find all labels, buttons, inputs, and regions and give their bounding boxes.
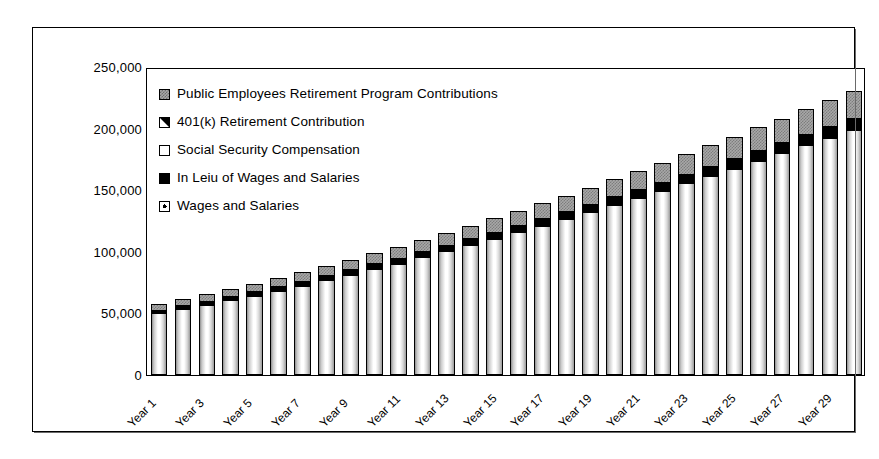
bar-segment-pers xyxy=(582,188,599,205)
bar-year-20[interactable] xyxy=(606,179,623,375)
legend-item-in-lieu[interactable]: In Leiu of Wages and Salaries xyxy=(159,164,579,192)
bar-segment-wages xyxy=(222,300,239,375)
bar-segment-pers xyxy=(270,278,287,287)
bar-segment-pers xyxy=(702,145,719,167)
bar-segment-wages xyxy=(390,264,407,375)
bar-segment-wages xyxy=(151,313,168,375)
bar-segment-wages xyxy=(199,305,216,375)
y-axis-tick-label: 200,000 xyxy=(50,123,142,136)
bar-segment-pers xyxy=(486,218,503,233)
bar-year-2[interactable] xyxy=(175,299,192,375)
bar-segment-in-lieu xyxy=(390,259,407,264)
x-axis-tick-label: Year 5 xyxy=(221,397,254,430)
bar-year-6[interactable] xyxy=(270,278,287,375)
bar-year-12[interactable] xyxy=(414,240,431,375)
bar-segment-wages xyxy=(846,130,863,375)
bar-segment-in-lieu xyxy=(702,167,719,176)
bar-segment-pers xyxy=(678,154,695,175)
y-axis-tick-label: 150,000 xyxy=(50,184,142,197)
bar-segment-in-lieu xyxy=(774,143,791,153)
x-axis-tick-label: Year 23 xyxy=(653,392,690,429)
bar-segment-in-lieu xyxy=(750,151,767,160)
bar-year-16[interactable] xyxy=(510,211,527,375)
bar-segment-in-lieu xyxy=(199,302,216,305)
bar-segment-wages xyxy=(702,176,719,375)
x-axis-tick-label: Year 25 xyxy=(701,392,738,429)
legend-item-label: 401(k) Retirement Contribution xyxy=(177,115,365,129)
bar-segment-pers xyxy=(606,179,623,197)
y-axis-tick-label: 100,000 xyxy=(50,246,142,259)
legend-item-label: Social Security Compensation xyxy=(177,143,360,157)
bar-segment-pers xyxy=(726,137,743,160)
bar-segment-wages xyxy=(246,296,263,375)
bar-segment-in-lieu xyxy=(846,119,863,130)
bar-segment-in-lieu xyxy=(222,297,239,300)
bar-year-30[interactable] xyxy=(846,91,863,375)
bar-year-25[interactable] xyxy=(726,137,743,375)
bar-segment-wages xyxy=(318,280,335,375)
bar-segment-in-lieu xyxy=(630,190,647,198)
bar-segment-in-lieu xyxy=(582,205,599,212)
bar-segment-in-lieu xyxy=(678,175,695,184)
bar-year-15[interactable] xyxy=(486,218,503,375)
bar-segment-pers xyxy=(366,253,383,264)
bar-segment-pers xyxy=(750,127,767,151)
x-axis-tick-label: Year 9 xyxy=(317,397,350,430)
bar-year-18[interactable] xyxy=(558,196,575,376)
chart-legend: Public Employees Retirement Program Cont… xyxy=(159,80,579,220)
bar-year-11[interactable] xyxy=(390,247,407,375)
bar-year-22[interactable] xyxy=(654,163,671,375)
chart-outer-frame: 250,000200,000150,000100,00050,0000 Year… xyxy=(32,27,855,432)
x-axis-tick-label: Year 15 xyxy=(461,392,498,429)
legend-swatch-pers-icon xyxy=(159,89,170,100)
bar-year-29[interactable] xyxy=(822,100,839,375)
bar-year-10[interactable] xyxy=(366,253,383,375)
bar-segment-pers xyxy=(342,260,359,271)
x-axis-tick-label: Year 21 xyxy=(605,392,642,429)
bar-year-7[interactable] xyxy=(294,272,311,375)
bar-segment-pers xyxy=(390,247,407,259)
bar-segment-in-lieu xyxy=(414,252,431,257)
bar-year-5[interactable] xyxy=(246,284,263,375)
bar-year-8[interactable] xyxy=(318,266,335,375)
bar-segment-wages xyxy=(750,161,767,375)
bar-segment-in-lieu xyxy=(246,292,263,296)
legend-item-retirement-401k[interactable]: 401(k) Retirement Contribution xyxy=(159,108,579,136)
bar-segment-pers xyxy=(438,233,455,246)
bar-segment-wages xyxy=(486,239,503,375)
legend-item-pers[interactable]: Public Employees Retirement Program Cont… xyxy=(159,80,579,108)
bar-year-21[interactable] xyxy=(630,171,647,375)
x-axis-tick-label: Year 11 xyxy=(365,393,402,430)
bar-segment-wages xyxy=(798,145,815,375)
bar-year-27[interactable] xyxy=(774,119,791,375)
bar-segment-wages xyxy=(366,269,383,375)
legend-item-wages[interactable]: Wages and Salaries xyxy=(159,192,579,220)
legend-item-label: Public Employees Retirement Program Cont… xyxy=(177,87,498,101)
y-axis: 250,000200,000150,000100,00050,0000 xyxy=(47,68,142,376)
legend-item-social-security[interactable]: Social Security Compensation xyxy=(159,136,579,164)
bar-segment-in-lieu xyxy=(510,226,527,232)
bar-segment-in-lieu xyxy=(270,287,287,291)
bar-year-26[interactable] xyxy=(750,127,767,375)
bar-year-1[interactable] xyxy=(151,304,168,375)
bar-year-13[interactable] xyxy=(438,233,455,375)
bar-segment-pers xyxy=(630,171,647,190)
bar-year-23[interactable] xyxy=(678,154,695,375)
bar-year-14[interactable] xyxy=(462,226,479,376)
bar-year-19[interactable] xyxy=(582,188,599,375)
bar-segment-wages xyxy=(630,198,647,375)
x-axis-tick-label: Year 27 xyxy=(749,392,786,429)
bar-year-17[interactable] xyxy=(534,203,551,375)
bar-year-9[interactable] xyxy=(342,260,359,375)
bar-segment-in-lieu xyxy=(822,127,839,138)
bar-segment-pers xyxy=(151,304,168,311)
bar-segment-pers xyxy=(222,289,239,297)
bar-segment-wages xyxy=(558,219,575,375)
bar-year-4[interactable] xyxy=(222,289,239,375)
x-axis-tick-label: Year 3 xyxy=(173,397,206,430)
bar-segment-in-lieu xyxy=(654,183,671,191)
bar-year-28[interactable] xyxy=(798,109,815,375)
x-axis-tick-label: Year 19 xyxy=(557,392,594,429)
bar-year-3[interactable] xyxy=(199,294,216,375)
bar-year-24[interactable] xyxy=(702,145,719,375)
